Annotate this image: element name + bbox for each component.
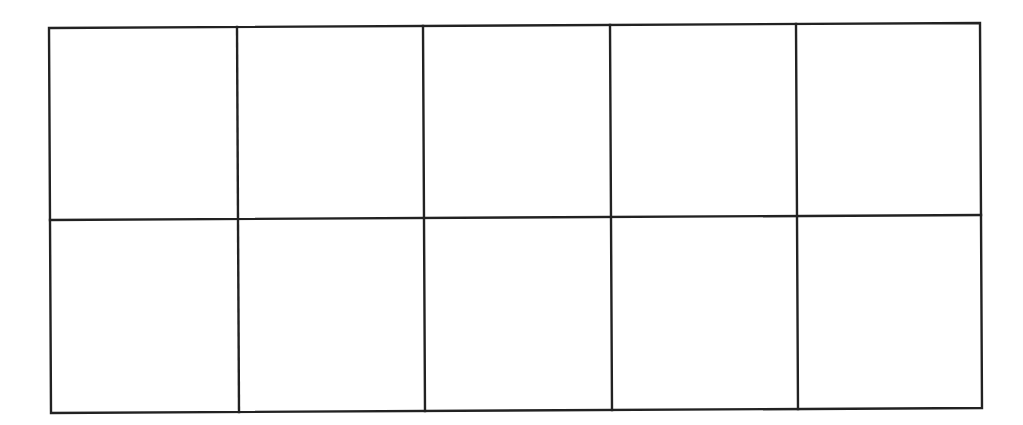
grid-cell-r2-c2 [239,222,421,411]
grid-column-divider-3 [610,25,612,410]
grid-cell-r2-c5 [798,222,978,411]
grid-column-divider-1 [237,27,239,412]
grid-cell-r2-c4 [612,222,794,411]
grid-cell-r1-c2 [239,30,421,218]
grid-cell-r2-c3 [425,222,608,411]
grid-cell-r1-c4 [612,30,794,218]
grid-column-divider-4 [796,24,798,409]
grid-cell-r1-c1 [51,30,235,218]
grid-diagram [0,0,1023,425]
grid-cell-r1-c5 [798,30,978,218]
grid-cell-r1-c3 [425,30,608,218]
grid-cell-r2-c1 [51,222,235,411]
grid-column-divider-2 [423,26,425,411]
grid-cells [51,30,978,411]
